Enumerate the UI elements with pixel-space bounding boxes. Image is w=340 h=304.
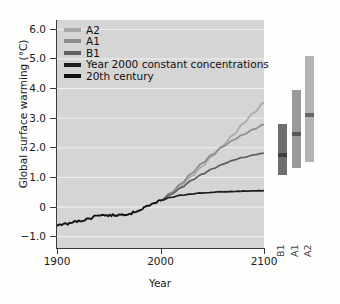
series-line-b1 [161, 153, 265, 201]
climate-projection-chart: −1.001.02.03.04.05.06.0 190020002100 Glo… [0, 0, 340, 304]
legend-item: A2 [64, 24, 269, 36]
uncertainty-bar-label-a1: A1 [289, 244, 300, 257]
legend-label: B1 [86, 48, 100, 59]
y-tick [50, 118, 56, 119]
y-tick-label: 0 [6, 202, 46, 213]
best-estimate-marker [292, 132, 301, 137]
legend-label: Year 2000 constant concentrations [86, 59, 269, 70]
y-tick [50, 88, 56, 89]
y-axis-title: Global surface warming (°C) [17, 29, 29, 199]
series-line-20th-century [57, 200, 159, 226]
y-tick [50, 207, 56, 208]
legend-item: Year 2000 constant concentrations [64, 59, 269, 71]
legend-item: A1 [64, 36, 269, 48]
series-line-a1 [161, 124, 265, 200]
x-tick [57, 248, 58, 254]
legend-swatch [64, 39, 81, 43]
series-line-a2 [161, 102, 265, 200]
uncertainty-bar-label-a2: A2 [302, 244, 313, 257]
y-tick [50, 147, 56, 148]
legend-label: 20th century [86, 71, 154, 82]
x-axis-title: Year [100, 277, 220, 289]
x-tick [264, 248, 265, 254]
legend: A2A1B1Year 2000 constant concentrations2… [64, 24, 269, 82]
x-tick-label: 2000 [131, 255, 191, 267]
y-tick [50, 29, 56, 30]
best-estimate-marker [278, 153, 287, 158]
uncertainty-bar-b1 [278, 124, 287, 176]
x-tick [161, 248, 162, 254]
legend-swatch [64, 51, 81, 55]
uncertainty-bar-a2 [305, 56, 314, 163]
legend-swatch [64, 74, 81, 78]
legend-swatch [64, 63, 81, 67]
uncertainty-bar-label-b1: B1 [275, 244, 286, 257]
legend-swatch [64, 28, 81, 32]
best-estimate-marker [305, 113, 314, 118]
legend-label: A1 [86, 36, 100, 47]
legend-item: 20th century [64, 70, 269, 82]
legend-label: A2 [86, 25, 100, 36]
y-tick [50, 177, 56, 178]
y-tick [50, 58, 56, 59]
legend-item: B1 [64, 47, 269, 59]
y-tick-label: −1.0 [6, 231, 46, 242]
y-tick [50, 236, 56, 237]
x-tick-label: 1900 [27, 255, 87, 267]
uncertainty-bar-a1 [292, 90, 301, 168]
